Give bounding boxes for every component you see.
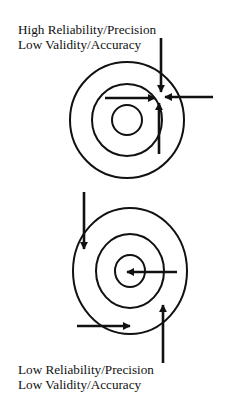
top-target-outer-ring xyxy=(70,62,184,178)
top-target-bullseye-ring xyxy=(112,105,142,135)
bottom-reliability-label: Low Reliability/Precision xyxy=(18,363,154,378)
top-target-panel xyxy=(70,38,213,178)
bottom-validity-label: Low Validity/Accuracy xyxy=(18,378,154,393)
bottom-panel-caption: Low Reliability/Precision Low Validity/A… xyxy=(18,363,154,392)
diagram-canvas xyxy=(0,0,229,406)
top-target-middle-ring xyxy=(92,84,162,156)
bottom-target-panel xyxy=(73,192,187,363)
